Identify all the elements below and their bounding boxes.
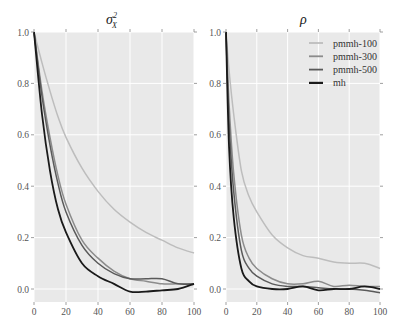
y-tick-label: 0.2 — [17, 233, 29, 243]
y-tick-label: 0.8 — [17, 79, 29, 89]
x-tick-label: 60 — [125, 307, 135, 317]
y-tick-label: 0.0 — [209, 285, 221, 295]
y-tick-label: 0.6 — [17, 130, 29, 140]
legend-label-pmmh-300: pmmh-300 — [333, 51, 377, 62]
x-tick-label: 0 — [32, 307, 37, 317]
x-tick-label: 60 — [314, 307, 324, 317]
x-tick-label: 80 — [344, 307, 354, 317]
x-tick-label: 20 — [61, 307, 71, 317]
x-tick-label: 40 — [93, 307, 103, 317]
y-tick-label: 0.4 — [209, 182, 221, 192]
x-tick-label: 80 — [157, 307, 167, 317]
y-tick-label: 0.2 — [209, 233, 221, 243]
plot-area-left — [34, 32, 194, 302]
x-tick-label: 0 — [224, 307, 229, 317]
x-tick-label: 100 — [187, 307, 202, 317]
y-tick-label: 0.6 — [209, 130, 221, 140]
x-tick-label: 20 — [252, 307, 262, 317]
chart-figure: 0204060801000.00.20.40.60.81.0 σ2X 02040… — [0, 0, 399, 331]
y-tick-label: 0.8 — [209, 79, 221, 89]
y-tick-label: 0.4 — [17, 182, 29, 192]
title-sigma-x-squared: σ2X — [106, 11, 118, 30]
x-tick-label: 40 — [283, 307, 293, 317]
y-tick-label: 1.0 — [17, 28, 29, 38]
y-tick-label: 1.0 — [209, 28, 221, 38]
legend-label-pmmh-500: pmmh-500 — [333, 64, 377, 75]
legend-label-mh: mh — [333, 77, 346, 88]
plot-sigma-x-squared: 0204060801000.00.20.40.60.81.0 σ2X — [17, 11, 201, 317]
x-tick-label: 100 — [373, 307, 388, 317]
legend-label-pmmh-100: pmmh-100 — [333, 38, 377, 49]
y-tick-label: 0.0 — [17, 285, 29, 295]
title-rho: ρ — [299, 12, 307, 27]
